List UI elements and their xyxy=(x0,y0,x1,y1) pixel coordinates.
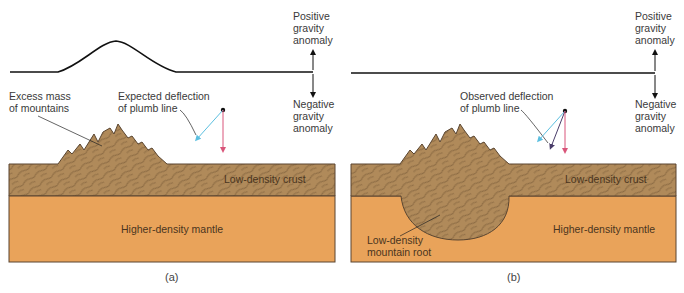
mountain-label: Excess mass of mountains xyxy=(9,90,74,114)
root-label: Low-density mountain root xyxy=(367,234,431,258)
deflection-label: Expected deflection of plumb line xyxy=(118,90,213,114)
negative-gravity-label: Negative gravity anomaly xyxy=(635,98,679,134)
caption-a: (a) xyxy=(165,271,178,283)
mountain-leader-line xyxy=(38,116,102,146)
panel-b: Positive gravity anomaly Negative gravit… xyxy=(351,10,679,283)
positive-gravity-label: Positive gravity anomaly xyxy=(635,10,675,46)
positive-gravity-label: Positive gravity anomaly xyxy=(293,10,333,46)
observed-deflection-arrow-icon xyxy=(551,111,565,147)
caption-b: (b) xyxy=(507,271,520,283)
deflection-leader-line xyxy=(521,110,548,143)
isostasy-diagram: Positive gravity anomaly Negative gravit… xyxy=(0,0,684,293)
crust-layer xyxy=(9,124,335,196)
crust-label: Low-density crust xyxy=(565,173,647,185)
gravity-profile-curve xyxy=(10,41,313,72)
negative-gravity-label: Negative gravity anomaly xyxy=(293,98,337,134)
mantle-label: Higher-density mantle xyxy=(121,223,223,235)
crust-label: Low-density crust xyxy=(224,173,306,185)
expected-deflection-arrow-icon xyxy=(539,111,565,140)
panel-a: Positive gravity anomaly Negative gravit… xyxy=(9,10,337,283)
mantle-label: Higher-density mantle xyxy=(553,223,655,235)
deflection-leader-line xyxy=(180,110,196,135)
expected-deflection-arrow-icon xyxy=(197,110,223,139)
deflection-label: Observed deflection of plumb line xyxy=(460,90,556,114)
